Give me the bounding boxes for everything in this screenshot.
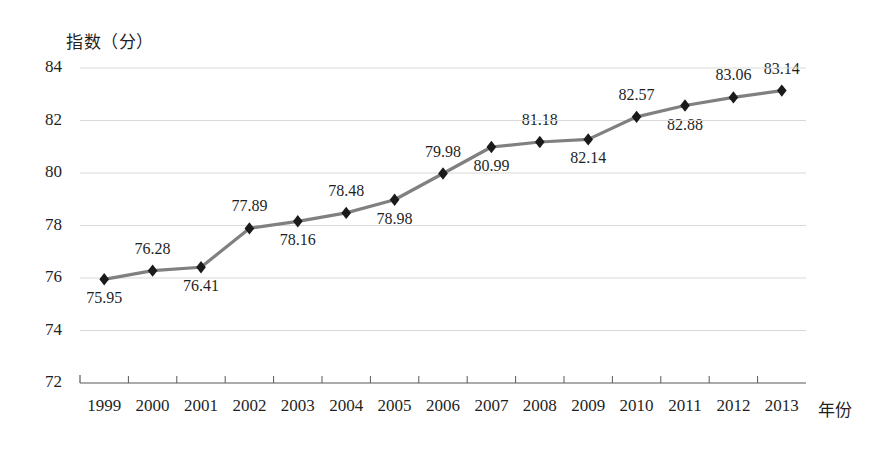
- data-line: [104, 91, 782, 280]
- data-point-marker: [729, 91, 739, 103]
- data-point-marker: [487, 141, 497, 153]
- data-point-marker: [390, 194, 400, 206]
- data-point-marker: [632, 111, 642, 123]
- data-point-marker: [99, 273, 109, 285]
- line-chart: 指数（分） 年份 84828078767472 1999200020012002…: [0, 0, 881, 459]
- plot-area: [0, 0, 881, 459]
- data-point-marker: [583, 133, 593, 145]
- data-point-marker: [148, 264, 158, 276]
- data-point-marker: [777, 84, 787, 96]
- data-point-marker: [341, 207, 351, 219]
- data-point-marker: [535, 136, 545, 148]
- data-point-marker: [680, 99, 690, 111]
- data-point-marker: [438, 167, 448, 179]
